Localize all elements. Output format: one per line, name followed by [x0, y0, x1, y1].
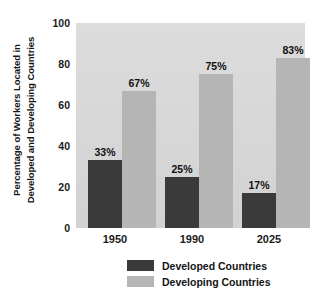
y-tick-label-0: 0	[44, 223, 70, 234]
bar-chart-figure: Percentage of Workers Located in Develop…	[0, 0, 322, 298]
x-tick-label-1950: 1950	[90, 233, 140, 245]
y-tick-label-40: 40	[44, 141, 70, 152]
legend-item-developed: Developed Countries	[127, 258, 307, 273]
data-label-developing-1990: 75%	[195, 61, 237, 72]
legend-label-developed: Developed Countries	[162, 260, 267, 272]
legend-label-developing: Developing Countries	[162, 276, 271, 288]
bar-developing-1950	[122, 91, 156, 228]
x-tick-label-2025: 2025	[244, 233, 294, 245]
legend-swatch-developing-icon	[127, 276, 154, 287]
data-label-developed-1990: 25%	[161, 164, 203, 175]
y-tick-label-80: 80	[44, 59, 70, 70]
legend-item-developing: Developing Countries	[127, 274, 307, 289]
data-label-developing-1950: 67%	[118, 78, 160, 89]
y-tick-label-100: 100	[44, 18, 70, 29]
data-label-developed-2025: 17%	[238, 180, 280, 191]
x-tick-label-1990: 1990	[167, 233, 217, 245]
y-tick-label-60: 60	[44, 100, 70, 111]
y-axis-title-line-1: Percentage of Workers Located in	[10, 37, 24, 204]
bar-developed-2025	[242, 193, 276, 228]
y-axis-title-line-2: Developed and Developing Countries	[23, 37, 37, 204]
y-axis-title: Percentage of Workers Located in Develop…	[0, 0, 46, 240]
bar-developing-2025	[276, 58, 310, 228]
data-label-developing-2025: 83%	[272, 45, 314, 56]
bar-developed-1990	[165, 177, 199, 228]
chart-legend: Developed Countries Developing Countries	[127, 258, 307, 290]
bar-developing-1990	[199, 74, 233, 228]
legend-swatch-developed-icon	[127, 260, 154, 271]
data-label-developed-1950: 33%	[84, 147, 126, 158]
plot-area: 33% 67% 25% 75% 17% 83%	[76, 23, 305, 228]
y-tick-label-20: 20	[44, 182, 70, 193]
bar-developed-1950	[88, 160, 122, 228]
